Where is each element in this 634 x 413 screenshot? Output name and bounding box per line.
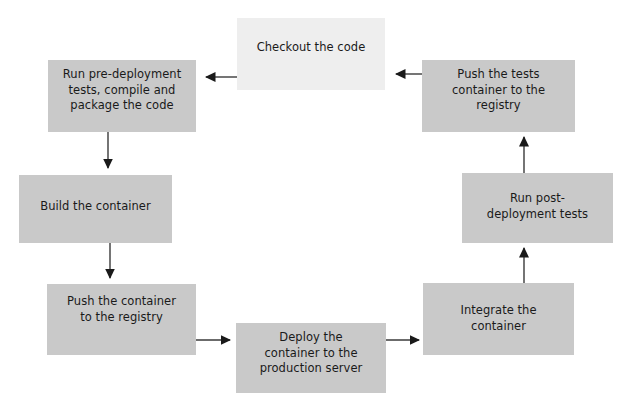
node-deploy-the-container-to-the-production-server[interactable]: Deploy the container to the production s…	[236, 323, 386, 393]
node-run-post-deployment-tests[interactable]: Run post- deployment tests	[462, 173, 613, 243]
flowchart-canvas: Checkout the code Run pre-deployment tes…	[0, 0, 634, 413]
node-checkout-the-code[interactable]: Checkout the code	[237, 18, 385, 90]
node-build-the-container[interactable]: Build the container	[19, 175, 172, 243]
node-integrate-the-container[interactable]: Integrate the container	[423, 283, 574, 355]
node-push-the-tests-container-to-the-registry[interactable]: Push the tests container to the registry	[422, 60, 575, 132]
node-run-pre-deployment-tests[interactable]: Run pre-deployment tests, compile and pa…	[48, 60, 196, 132]
node-push-the-container-to-the-registry[interactable]: Push the container to the registry	[47, 284, 196, 355]
